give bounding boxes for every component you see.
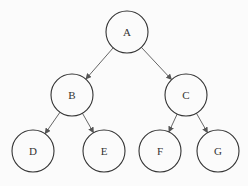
- node-label: E: [101, 145, 108, 157]
- edge-b-e: [82, 113, 93, 132]
- node-e: E: [83, 130, 125, 172]
- edge-b-d: [45, 112, 60, 133]
- node-label: B: [68, 89, 75, 101]
- node-label: C: [182, 89, 189, 101]
- node-label: G: [214, 145, 222, 157]
- node-d: D: [12, 130, 54, 172]
- tree-svg: ABCDEFG: [0, 0, 248, 186]
- edge-c-g: [196, 113, 207, 132]
- tree-diagram: ABCDEFG: [0, 0, 248, 186]
- node-label: D: [29, 145, 37, 157]
- node-f: F: [139, 130, 181, 172]
- node-label: A: [123, 26, 131, 38]
- node-g: G: [197, 130, 239, 172]
- nodes-group: ABCDEFG: [12, 11, 239, 172]
- node-label: F: [157, 145, 163, 157]
- edge-a-b: [86, 48, 113, 79]
- node-b: B: [51, 74, 93, 116]
- node-c: C: [165, 74, 207, 116]
- edge-a-c: [141, 47, 171, 79]
- edge-c-f: [169, 114, 177, 131]
- node-a: A: [106, 11, 148, 53]
